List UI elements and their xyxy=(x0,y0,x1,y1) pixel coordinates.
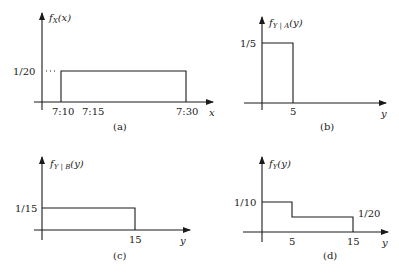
panel-caption: (b) xyxy=(320,121,334,132)
x-axis-label: y xyxy=(381,237,388,248)
x-tick-label: 5 xyxy=(290,106,296,117)
y-tick-label: 1/15 xyxy=(15,203,37,214)
panel-a: fX(x) 1/20 7:10 7:15 7:30 x (a) xyxy=(13,12,215,132)
panel-caption: (a) xyxy=(113,121,127,132)
y-axis-label: fX(x) xyxy=(48,12,71,25)
y-tick-label-high: 1/10 xyxy=(234,197,256,208)
pdf-diagram-figure: fX(x) 1/20 7:10 7:15 7:30 x (a) fY | A(y… xyxy=(0,0,399,273)
y-tick-label-low: 1/20 xyxy=(358,208,380,219)
x-tick-label: 7:30 xyxy=(176,106,198,117)
x-tick-label: 7:10 xyxy=(52,106,74,117)
panel-caption: (d) xyxy=(323,250,337,261)
x-tick-label: 5 xyxy=(289,236,295,247)
y-axis-label: fY(y) xyxy=(268,158,291,171)
conditional-pdf-box xyxy=(262,43,293,103)
y-axis-label: fY | A(y) xyxy=(268,17,303,30)
panel-b: fY | A(y) 1/5 5 y (b) xyxy=(240,17,387,132)
marginal-pdf-staircase xyxy=(262,202,353,232)
x-tick-label: 7:15 xyxy=(82,106,104,117)
x-tick-label: 15 xyxy=(347,236,360,247)
panel-caption: (c) xyxy=(113,250,127,261)
conditional-pdf-box xyxy=(42,208,135,230)
y-axis-label: fY | B(y) xyxy=(49,158,84,171)
x-tick-label: 15 xyxy=(129,234,142,245)
x-axis-label: y xyxy=(179,235,186,246)
uniform-pdf-box xyxy=(61,71,186,102)
x-axis-label: y xyxy=(380,108,387,119)
y-tick-label: 1/20 xyxy=(13,66,35,77)
panel-c: fY | B(y) 1/15 15 y (c) xyxy=(15,157,190,261)
y-tick-label: 1/5 xyxy=(240,38,256,49)
x-axis-label: x xyxy=(209,107,215,118)
panel-d: fY(y) 1/10 1/20 5 15 y (d) xyxy=(234,157,388,261)
